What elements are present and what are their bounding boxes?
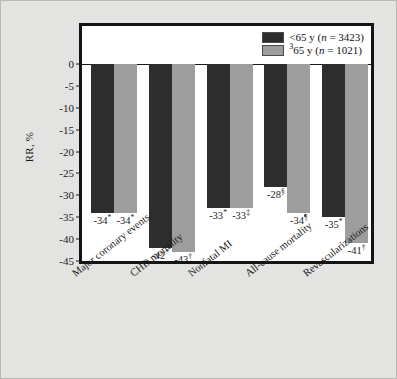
y-tick-label: -15 xyxy=(28,124,74,136)
legend: <65 y (n = 3423) 365 y (n = 1021) xyxy=(259,29,367,58)
y-tick-label: -10 xyxy=(28,102,74,114)
y-tick-label: -45 xyxy=(28,255,74,267)
legend-swatch-under65 xyxy=(262,32,284,43)
bar-under65 xyxy=(207,64,230,208)
bar-value-label: -33* xyxy=(209,210,227,221)
bar-over65 xyxy=(287,64,310,213)
legend-item-over65: 365 y (n = 1021) xyxy=(262,44,364,56)
bar-over65 xyxy=(172,64,195,252)
bar-over65 xyxy=(345,64,368,243)
y-tick-label: -25 xyxy=(28,167,74,179)
bar-under65 xyxy=(322,64,345,217)
legend-label-under65: <65 y (n = 3423) xyxy=(289,31,364,43)
bar-value-label: -41† xyxy=(348,245,366,256)
legend-label-over65: 365 y (n = 1021) xyxy=(289,44,362,56)
bar-over65 xyxy=(114,64,137,213)
y-tick-label: -5 xyxy=(28,80,74,92)
bar-value-label: -33‡ xyxy=(232,210,250,221)
bar-over65 xyxy=(230,64,253,208)
figure-canvas: RR, % 0-5-10-15-20-25-30-35-40-45 -34*-3… xyxy=(0,0,397,379)
y-tick-label: 0 xyxy=(28,58,74,70)
y-tick-label: -40 xyxy=(28,233,74,245)
bar-under65 xyxy=(149,64,172,248)
bar-value-label: -34* xyxy=(94,215,112,226)
y-tick-label: -20 xyxy=(28,146,74,158)
y-tick-label: -30 xyxy=(28,189,74,201)
legend-swatch-over65 xyxy=(262,45,284,56)
bar-value-label: -28§ xyxy=(267,189,285,200)
bar-under65 xyxy=(264,64,287,187)
bar-under65 xyxy=(91,64,114,213)
y-tick-label: -35 xyxy=(28,211,74,223)
bar-value-label: -43† xyxy=(174,254,192,261)
legend-item-under65: <65 y (n = 3423) xyxy=(262,31,364,43)
bar-value-label: -35* xyxy=(325,219,343,230)
